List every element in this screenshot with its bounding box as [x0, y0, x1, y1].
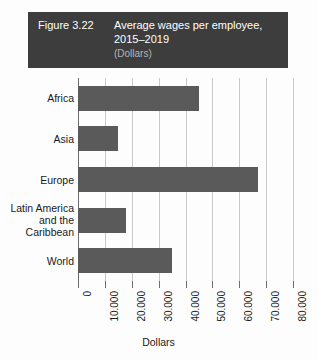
figure-number: Figure 3.22	[38, 19, 114, 33]
category-label: Africa	[2, 92, 78, 104]
bar	[78, 167, 258, 192]
bar	[78, 208, 126, 233]
bar-row	[78, 248, 293, 273]
bar	[78, 126, 118, 151]
tick-label: 80.000	[297, 291, 308, 322]
tick-mark	[239, 281, 240, 288]
figure-title: Average wages per employee, 2015–2019	[114, 19, 280, 46]
x-axis-ticks: 010.00020.00030.00040.00050.00060.00070.…	[78, 281, 293, 361]
tick-mark	[105, 281, 106, 288]
tick-label: 30.000	[163, 291, 174, 322]
tick-label: 60.000	[243, 291, 254, 322]
tick-mark	[293, 281, 294, 288]
tick-mark	[212, 281, 213, 288]
bar	[78, 248, 172, 273]
tick-mark	[132, 281, 133, 288]
figure-header: Figure 3.22 Average wages per employee, …	[28, 12, 288, 68]
tick-mark	[159, 281, 160, 288]
category-label: World	[2, 255, 78, 267]
figure-unit-label: (Dollars)	[114, 47, 280, 60]
plot-region	[78, 78, 293, 281]
tick-label: 10.000	[109, 291, 120, 322]
tick-label: 50.000	[216, 291, 227, 322]
tick-label: 40.000	[190, 291, 201, 322]
x-axis-title: Dollars	[0, 336, 317, 348]
bar-row	[78, 167, 293, 192]
category-label: Asia	[2, 133, 78, 145]
tick-label: 0	[82, 291, 93, 297]
tick-mark	[78, 281, 79, 288]
category-label: Latin Americaand theCaribbean	[2, 202, 78, 238]
tick-mark	[266, 281, 267, 288]
chart-area: AfricaAsiaEuropeLatin Americaand theCari…	[0, 78, 317, 361]
tick-mark	[186, 281, 187, 288]
figure-header-row: Figure 3.22 Average wages per employee, …	[38, 19, 280, 60]
bar-row	[78, 86, 293, 111]
figure-title-block: Average wages per employee, 2015–2019 (D…	[114, 19, 280, 60]
tick-label: 20.000	[136, 291, 147, 322]
category-label: Europe	[2, 174, 78, 186]
y-axis-category-labels: AfricaAsiaEuropeLatin Americaand theCari…	[0, 78, 78, 281]
bar-row	[78, 208, 293, 233]
bar	[78, 86, 199, 111]
tick-label: 70.000	[270, 291, 281, 322]
gridline	[293, 78, 294, 281]
figure-container: Figure 3.22 Average wages per employee, …	[0, 0, 317, 361]
bar-row	[78, 126, 293, 151]
